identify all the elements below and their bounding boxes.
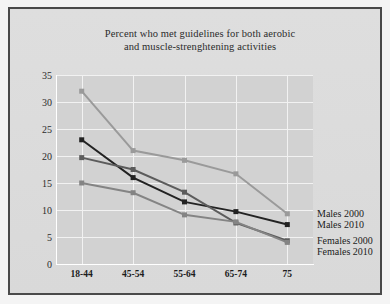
- x-axis-tick-label: 65-74: [225, 269, 247, 279]
- x-axis-tick-label: 55-64: [173, 269, 195, 279]
- y-axis-tick-label: 0: [26, 259, 52, 270]
- y-axis-tick-label: 15: [26, 178, 52, 189]
- data-point-marker: [182, 190, 187, 195]
- legend-label-males-2000: Males 2000: [317, 208, 364, 219]
- series-line: [82, 91, 288, 214]
- data-point-marker: [285, 222, 290, 227]
- data-point-marker: [182, 212, 187, 217]
- legend-label-males-2010: Males 2010: [317, 219, 364, 230]
- series-males-2000: [79, 89, 290, 217]
- data-point-marker: [233, 219, 238, 224]
- chart-title-line-2: and muscle-strenghtening activities: [50, 40, 350, 53]
- series-line: [82, 140, 288, 225]
- x-axis-tick-label: 45-54: [122, 269, 144, 279]
- y-axis-tick-label: 20: [26, 151, 52, 162]
- data-point-marker: [131, 148, 136, 153]
- data-point-marker: [79, 89, 84, 94]
- y-axis-tick-label: 30: [26, 97, 52, 108]
- series-line: [82, 158, 288, 241]
- data-point-marker: [131, 175, 136, 180]
- y-axis-tick-label: 25: [26, 124, 52, 135]
- chart-figure: Percent who met guidelines for both aero…: [0, 0, 390, 304]
- y-axis-tick-label: 35: [26, 70, 52, 81]
- data-point-marker: [131, 190, 136, 195]
- y-axis-tick-label: 10: [26, 205, 52, 216]
- data-point-marker: [285, 240, 290, 245]
- x-axis-tick-label: 18-44: [71, 269, 93, 279]
- x-axis-tick-labels: 18-4445-5455-6465-7475: [56, 269, 313, 285]
- data-point-marker: [131, 167, 136, 172]
- chart-title-line-1: Percent who met guidelines for both aero…: [50, 27, 350, 40]
- y-axis-tick-label: 5: [26, 232, 52, 243]
- x-axis-line: [56, 264, 314, 265]
- data-point-marker: [79, 155, 84, 160]
- y-axis-tick-labels: 05101520253035: [22, 75, 52, 264]
- series-layer: [56, 75, 313, 264]
- data-point-marker: [233, 209, 238, 214]
- data-point-marker: [79, 181, 84, 186]
- legend-label-females-2000: Females 2000: [317, 235, 373, 246]
- data-point-marker: [182, 199, 187, 204]
- data-point-marker: [285, 211, 290, 216]
- data-point-marker: [233, 171, 238, 176]
- x-axis-tick-label: 75: [283, 269, 293, 279]
- figure-frame: Percent who met guidelines for both aero…: [8, 7, 382, 295]
- data-point-marker: [79, 137, 84, 142]
- data-point-marker: [182, 158, 187, 163]
- chart-title: Percent who met guidelines for both aero…: [50, 27, 350, 53]
- legend-label-females-2010: Females 2010: [317, 246, 373, 257]
